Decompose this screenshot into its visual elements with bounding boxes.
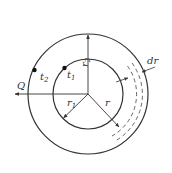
dr-label: dr <box>147 55 159 66</box>
t2-label: t2 <box>40 71 49 84</box>
dr-arrow-right <box>142 67 155 72</box>
t2-point <box>32 68 36 72</box>
r-radius-arrow <box>88 94 119 127</box>
r-label: r <box>105 97 111 108</box>
dashed-arc-outer <box>115 63 142 141</box>
t1-label: t1 <box>67 69 76 82</box>
heat-flow-label: Q <box>17 80 25 91</box>
dr-arrow-left <box>116 78 128 82</box>
annulus-diagram: Q t2 t1 r2 r1 r dr <box>0 0 172 173</box>
r2-label: r2 <box>79 57 92 67</box>
r1-label: r1 <box>67 97 76 110</box>
